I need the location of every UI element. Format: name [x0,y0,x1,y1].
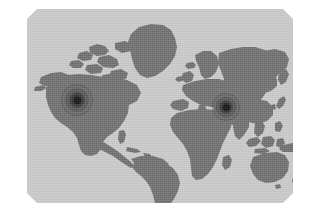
region-madagascar [222,155,232,170]
region-sea-peninsula [254,121,265,137]
region-japan [276,96,286,109]
region-canadian-arctic-c [97,55,119,68]
region-scandinavia [195,51,219,79]
region-canadian-arctic-f [85,64,103,74]
region-china [242,99,273,124]
region-sumatra [246,137,261,147]
region-borneo [261,136,275,148]
region-florida [118,130,126,144]
region-canadian-arctic-e [69,60,84,68]
region-new-zealand-south [292,176,293,186]
world-map-graphic [27,9,293,203]
region-cuba [126,147,141,153]
region-iberia [170,99,189,111]
screenshot-root [0,0,320,211]
region-kamchatka [278,69,289,85]
region-british-isles [181,71,194,83]
region-iceland [185,62,196,69]
world-map-panel[interactable] [27,9,293,203]
region-philippines [275,121,283,132]
region-australia [250,152,289,183]
region-canadian-arctic-a [89,44,109,56]
region-tasmania [275,184,281,189]
